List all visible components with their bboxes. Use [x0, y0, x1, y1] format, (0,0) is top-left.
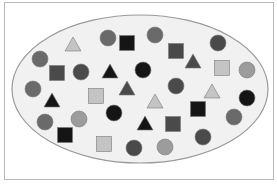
- square-shape: [89, 89, 104, 104]
- square-shape: [50, 66, 65, 81]
- square-shape: [97, 137, 112, 152]
- circle-shape: [25, 81, 41, 97]
- square-shape: [191, 102, 206, 117]
- circle-shape: [126, 140, 142, 156]
- circle-shape: [226, 109, 242, 125]
- set-ellipse: [12, 15, 268, 163]
- circle-shape: [168, 78, 184, 94]
- square-shape: [166, 117, 181, 132]
- circle-shape: [147, 27, 163, 43]
- circle-shape: [239, 90, 255, 106]
- circle-shape: [100, 30, 116, 46]
- circle-shape: [239, 62, 255, 78]
- circle-shape: [32, 51, 48, 67]
- circle-shape: [210, 35, 226, 51]
- circle-shape: [157, 139, 173, 155]
- circle-shape: [73, 64, 89, 80]
- set-diagram: [0, 0, 277, 185]
- circle-shape: [37, 114, 53, 130]
- square-shape: [215, 61, 230, 76]
- square-shape: [120, 36, 135, 51]
- circle-shape: [106, 105, 122, 121]
- square-shape: [58, 128, 73, 143]
- circle-shape: [71, 111, 87, 127]
- circle-shape: [135, 62, 151, 78]
- circle-shape: [195, 129, 211, 145]
- square-shape: [169, 44, 184, 59]
